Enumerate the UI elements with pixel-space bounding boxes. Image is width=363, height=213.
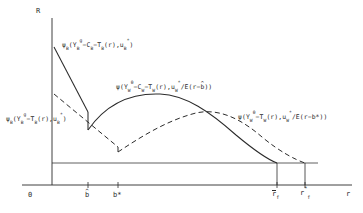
solid-worker-curve [88, 94, 277, 163]
x-axis-label: r [346, 191, 350, 198]
y-axis-label: R [36, 8, 40, 15]
curve-label-center: ψ(YW0−CW−TW(r),uW*/E(r−^b)) [116, 84, 212, 90]
origin-label: 0 [28, 192, 32, 199]
x-tick-label-b-hat: ^b [85, 192, 89, 199]
curve-label-right: ψ(YW0−TW(r),uW*/E(r−b*)) [238, 114, 327, 120]
figure-canvas: R r 0 ^b b* rf r*f ψB(YBg−CB−TB(r),uB*) … [0, 0, 363, 213]
diagram-svg [0, 0, 363, 213]
curve-label-lower-left: ψB(YBg−TB(r),uB*) [6, 116, 67, 122]
solid-bank-line [54, 47, 88, 112]
hat-accent-icon: ^ [85, 188, 89, 194]
x-tick-label-r-f-bar: rf [272, 190, 279, 198]
curve-label-upper-left: ψB(YBg−CB−TB(r),uB*) [62, 42, 134, 48]
hat-accent-icon: ^ [201, 81, 204, 86]
x-tick-label-b-star: b* [113, 192, 121, 199]
x-tick-label-r-f-star: r*f [300, 190, 310, 197]
